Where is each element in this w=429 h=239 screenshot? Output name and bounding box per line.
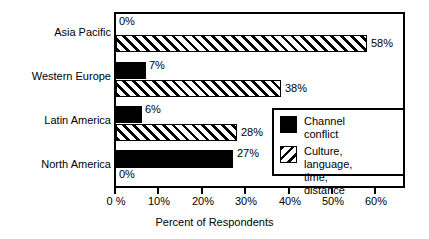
bar-north-america-channel-conflict	[116, 150, 233, 168]
legend-label-culture-language: Culture, language, time, distance	[304, 145, 352, 197]
x-axis-tick-label-0: 0 %	[107, 196, 126, 207]
x-axis-tick-label-20: 20%	[192, 196, 214, 207]
x-axis-tick-label-10: 10%	[148, 196, 170, 207]
y-axis-label-asia-pacific: Asia Pacific	[0, 27, 111, 38]
legend-hatch-swatch-icon	[280, 146, 297, 163]
x-axis-tick-label-60: 60%	[365, 196, 387, 207]
x-axis-tick-10	[157, 188, 159, 194]
bar-asia-pacific-culture-language	[116, 35, 367, 52]
value-label-north-america-culture-language: 0%	[119, 169, 135, 180]
bar-latin-america-channel-conflict	[116, 106, 142, 123]
x-axis-tick-60	[374, 188, 376, 194]
x-axis-tick-20	[201, 188, 203, 194]
bar-latin-america-culture-language	[116, 124, 237, 141]
legend-solid-swatch-icon	[280, 116, 297, 133]
x-axis-tick-0	[114, 188, 116, 194]
bar-chart: Asia Pacific Western Europe Latin Americ…	[0, 0, 429, 239]
bar-western-europe-culture-language	[116, 80, 281, 97]
y-axis-label-latin-america: Latin America	[0, 115, 111, 126]
bar-western-europe-channel-conflict	[116, 62, 146, 79]
value-label-north-america-channel-conflict: 27%	[237, 148, 259, 159]
value-label-latin-america-culture-language: 28%	[241, 127, 263, 138]
x-axis-tick-label-40: 40%	[279, 196, 301, 207]
value-label-asia-pacific-culture-language: 58%	[371, 38, 393, 49]
y-axis-label-north-america: North America	[0, 159, 111, 170]
legend-label-channel-conflict: Channel conflict	[304, 115, 345, 141]
y-axis-label-western-europe: Western Europe	[0, 71, 111, 82]
value-label-asia-pacific-channel-conflict: 0%	[119, 16, 135, 27]
y-axis-category-labels: Asia Pacific Western Europe Latin Americ…	[0, 0, 111, 239]
x-axis-tick-label-50: 50%	[322, 196, 344, 207]
x-axis-title: Percent of Respondents	[0, 217, 429, 228]
x-axis-tick-30	[244, 188, 246, 194]
value-label-western-europe-culture-language: 38%	[285, 83, 307, 94]
legend: Channel conflict Culture, language, time…	[272, 108, 405, 176]
value-label-latin-america-channel-conflict: 6%	[145, 104, 161, 115]
x-axis-tick-label-30: 30%	[235, 196, 257, 207]
value-label-western-europe-channel-conflict: 7%	[149, 60, 165, 71]
x-axis-tick-50	[331, 188, 333, 194]
x-axis-tick-40	[288, 188, 290, 194]
